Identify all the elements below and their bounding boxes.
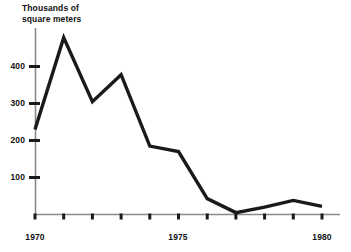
chart-figure: Thousands ofsquare meters 400 300 200 10… — [0, 0, 351, 252]
plot-area — [0, 0, 351, 252]
axes-group — [35, 28, 340, 215]
data-series-line — [35, 38, 322, 213]
